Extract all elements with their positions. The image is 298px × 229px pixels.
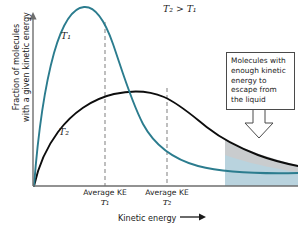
curve-label-t1: T₁ (61, 30, 71, 41)
x-axis-label-text: Kinetic energy (118, 213, 176, 223)
tick-label-average-ke-t2-line1: Average KE (134, 188, 200, 197)
y-axis-label-line2: with a given kinetic energy (22, 12, 32, 122)
tick-label-average-ke-t1-line1: Average KE (72, 188, 138, 197)
callout-text: Molecules with enough kinetic energy to … (231, 56, 286, 104)
tick-label-average-ke-t2-line2: T₂ (134, 197, 200, 207)
tick-label-average-ke-t1-line2: T₁ (72, 197, 138, 207)
curve-label-t2: T₂ (59, 126, 69, 137)
temperature-inequality-annotation: T₂ > T₁ (163, 3, 197, 14)
curve-label-t1-text: T₁ (61, 30, 71, 41)
x-axis-label: Kinetic energy (118, 213, 176, 223)
curve-label-t2-text: T₂ (59, 126, 69, 137)
tick-label-average-ke-t1: Average KE T₁ (72, 188, 138, 208)
y-axis-label: Fraction of molecules with a given kinet… (9, 1, 35, 133)
callout-box: Molecules with enough kinetic energy to … (226, 52, 295, 110)
tick-label-average-ke-t2: Average KE T₂ (134, 188, 200, 208)
kinetic-energy-distribution-figure: Molecules with enough kinetic energy to … (0, 0, 298, 229)
x-axis-arrow-icon (180, 213, 206, 220)
temperature-inequality-text: T₂ > T₁ (163, 3, 197, 14)
